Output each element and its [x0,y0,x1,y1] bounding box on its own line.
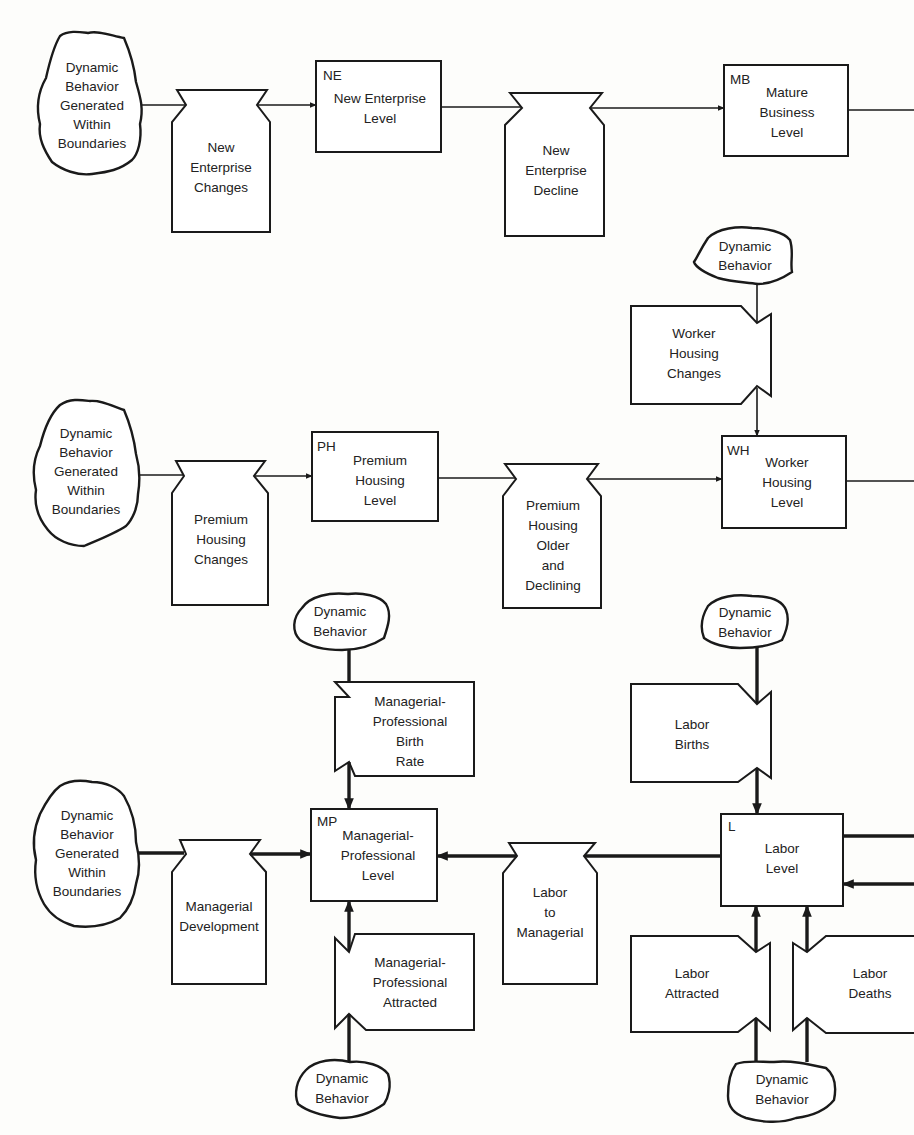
svg-text:Changes: Changes [194,180,248,195]
svg-text:Dynamic: Dynamic [316,1071,369,1086]
svg-text:Attracted: Attracted [383,995,437,1010]
svg-text:Labor: Labor [853,966,888,981]
svg-text:Level: Level [364,493,396,508]
rate-premium-housing-changes: Premium Housing Changes [172,461,268,605]
source-cloud-labor-births: Dynamic Behavior [702,595,788,648]
source-cloud-worker-housing: Dynamic Behavior [694,227,792,284]
svg-text:Behavior: Behavior [755,1092,809,1107]
svg-text:Level: Level [771,495,803,510]
source-cloud-managerial: Dynamic Behavior Generated Within Bounda… [34,781,139,927]
svg-text:Attracted: Attracted [665,986,719,1001]
svg-text:Behavior: Behavior [59,445,113,460]
svg-text:Managerial-: Managerial- [342,828,413,843]
svg-text:Deaths: Deaths [849,986,892,1001]
rate-labor-to-managerial: Labor to Managerial [503,843,597,984]
svg-text:L: L [728,819,736,834]
svg-text:New: New [542,143,569,158]
svg-text:Behavior: Behavior [313,624,367,639]
svg-text:New Enterprise: New Enterprise [334,91,426,106]
svg-text:Birth: Birth [396,734,424,749]
svg-text:Generated: Generated [55,846,119,861]
svg-text:Level: Level [766,861,798,876]
level-new-enterprise: NE New Enterprise Level [316,61,441,152]
svg-text:Worker: Worker [672,326,716,341]
svg-text:Changes: Changes [194,552,248,567]
svg-text:Enterprise: Enterprise [525,163,587,178]
svg-text:NE: NE [323,68,342,83]
level-managerial-professional: MP Managerial- Professional Level [311,809,437,901]
svg-text:Worker: Worker [765,455,809,470]
svg-text:Premium: Premium [194,512,248,527]
level-worker-housing: WH Worker Housing Level [722,436,846,528]
svg-text:MB: MB [730,72,750,87]
svg-text:Behavior: Behavior [65,79,119,94]
svg-text:Business: Business [760,105,815,120]
svg-text:Behavior: Behavior [315,1091,369,1106]
svg-text:Housing: Housing [762,475,812,490]
flow-diagram: Dynamic Behavior Generated Within Bounda… [0,0,914,1135]
svg-text:Level: Level [362,868,394,883]
svg-text:Declining: Declining [525,578,581,593]
svg-text:Housing: Housing [355,473,405,488]
svg-text:Professional: Professional [373,714,447,729]
rate-premium-housing-declining: Premium Housing Older and Declining [503,464,601,608]
svg-text:Within: Within [68,865,106,880]
svg-text:Labor: Labor [765,841,800,856]
svg-text:WH: WH [727,443,750,458]
svg-text:Within: Within [67,483,105,498]
svg-text:Housing: Housing [669,346,719,361]
level-labor: L Labor Level [721,814,843,906]
svg-text:and: and [542,558,565,573]
svg-text:Boundaries: Boundaries [53,884,122,899]
svg-text:Mature: Mature [766,85,808,100]
svg-text:Housing: Housing [528,518,578,533]
svg-text:Behavior: Behavior [718,258,772,273]
svg-text:Professional: Professional [373,975,447,990]
svg-text:Labor: Labor [533,885,568,900]
source-cloud-labor-bottom: Dynamic Behavior [728,1061,835,1121]
rate-worker-housing-changes: Worker Housing Changes [631,306,771,404]
svg-text:Premium: Premium [526,498,580,513]
svg-text:Enterprise: Enterprise [190,160,252,175]
svg-text:Development: Development [179,919,259,934]
svg-text:Managerial-: Managerial- [374,694,445,709]
rate-labor-deaths: Labor Deaths [793,936,914,1033]
rate-labor-births: Labor Births [631,684,771,782]
svg-text:Within: Within [73,117,111,132]
svg-text:Dynamic: Dynamic [61,808,114,823]
source-cloud-managerial-attracted: Dynamic Behavior [296,1060,390,1118]
rate-new-enterprise-changes: New Enterprise Changes [172,90,270,232]
svg-text:Behavior: Behavior [60,827,114,842]
svg-text:Managerial: Managerial [186,899,253,914]
source-cloud-housing: Dynamic Behavior Generated Within Bounda… [34,400,139,546]
svg-text:Generated: Generated [60,98,124,113]
svg-text:Labor: Labor [675,966,710,981]
level-premium-housing: PH Premium Housing Level [312,432,438,521]
svg-text:Dynamic: Dynamic [314,604,367,619]
svg-text:Labor: Labor [675,717,710,732]
source-cloud-enterprise: Dynamic Behavior Generated Within Bounda… [38,32,142,175]
svg-text:Boundaries: Boundaries [52,502,121,517]
svg-text:Older: Older [536,538,570,553]
source-cloud-managerial-birth: Dynamic Behavior [294,593,389,650]
svg-text:Managerial-: Managerial- [374,955,445,970]
svg-text:Decline: Decline [533,183,578,198]
svg-text:Changes: Changes [667,366,721,381]
svg-text:Dynamic: Dynamic [756,1072,809,1087]
svg-text:Boundaries: Boundaries [58,136,127,151]
svg-text:Dynamic: Dynamic [66,60,119,75]
rate-managerial-professional-birth-rate: Managerial- Professional Birth Rate [335,682,474,776]
rate-managerial-development: Managerial Development [172,840,266,984]
svg-text:Dynamic: Dynamic [719,605,772,620]
svg-text:MP: MP [317,814,337,829]
level-mature-business: MB Mature Business Level [724,65,848,156]
svg-text:Dynamic: Dynamic [60,426,113,441]
svg-text:Premium: Premium [353,453,407,468]
svg-text:Births: Births [675,737,710,752]
rate-managerial-professional-attracted: Managerial- Professional Attracted [335,934,474,1030]
svg-text:Housing: Housing [196,532,246,547]
rate-labor-attracted: Labor Attracted [631,936,770,1032]
svg-text:Behavior: Behavior [718,625,772,640]
svg-text:to: to [544,905,555,920]
svg-text:Dynamic: Dynamic [719,239,772,254]
